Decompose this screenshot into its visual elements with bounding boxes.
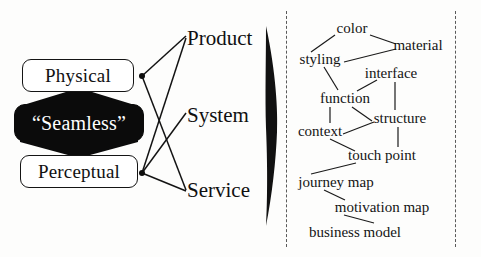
- network-node-material[interactable]: material: [393, 37, 442, 54]
- network-node-journey-map[interactable]: journey map: [298, 174, 373, 191]
- left-connector-group: [142, 36, 186, 191]
- edge-motivationmap-businessmodel: [344, 215, 374, 223]
- network-node-context[interactable]: context: [298, 123, 342, 140]
- left-dashed-rail: [286, 11, 287, 247]
- edge-styling-material: [344, 49, 396, 62]
- network-node-business-model[interactable]: business model: [309, 224, 401, 241]
- edge-touchpoint-journeymap: [311, 163, 356, 174]
- network-node-interface[interactable]: interface: [365, 65, 417, 82]
- connector-dot-perceptual: [139, 170, 145, 176]
- node-box-perceptual[interactable]: Perceptual: [20, 155, 138, 188]
- network-node-structure[interactable]: structure: [374, 110, 426, 127]
- network-node-motivation-map[interactable]: motivation map: [335, 199, 430, 216]
- label-service[interactable]: Service: [187, 178, 250, 203]
- edge-perceptual-system: [142, 113, 186, 173]
- node-box-physical[interactable]: Physical: [22, 59, 134, 92]
- edge-perceptual-product: [142, 38, 186, 173]
- network-node-touch-point[interactable]: touch point: [348, 147, 416, 164]
- edge-physical-service: [142, 76, 186, 190]
- edge-function-structure: [352, 107, 372, 121]
- edge-perceptual-service: [142, 173, 186, 191]
- network-node-styling[interactable]: styling: [300, 51, 341, 68]
- edge-color-material: [370, 35, 396, 44]
- label-product[interactable]: Product: [187, 26, 252, 51]
- network-node-color[interactable]: color: [337, 20, 368, 37]
- right-dashed-rail: [455, 11, 456, 247]
- edge-context-structure: [343, 122, 374, 134]
- network-node-function[interactable]: function: [320, 90, 370, 107]
- diagram-canvas: Physical “Seamless” Perceptual Product S…: [0, 0, 481, 257]
- label-system[interactable]: System: [187, 103, 249, 128]
- edge-styling-function: [324, 67, 338, 90]
- connector-dot-physical: [139, 73, 145, 79]
- wedge-divider: [266, 26, 278, 226]
- edge-color-styling: [311, 35, 335, 52]
- node-box-seamless[interactable]: “Seamless”: [14, 104, 144, 142]
